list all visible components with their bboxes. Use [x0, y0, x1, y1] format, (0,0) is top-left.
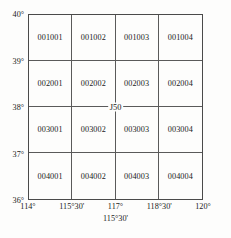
y-tick-label-37: 37° [13, 149, 24, 158]
x-tick-label-118-30: 118°30' [147, 202, 172, 211]
x-tick-label-114: 114° [20, 202, 35, 211]
grid-cell-label: 001002 [81, 33, 106, 42]
grid-cell[interactable]: 002003 [116, 61, 159, 107]
grid-cell[interactable]: 003001 [29, 107, 72, 153]
x-tick-label-120: 120° [195, 202, 211, 211]
x-tick-label-117: 117° [108, 202, 123, 211]
grid-cell-label: 003003 [124, 125, 149, 134]
y-axis-tick-labels: 40° 39° 38° 37° 36° [0, 14, 26, 200]
grid-cell-label: 001003 [124, 33, 149, 42]
grid-cell[interactable]: 004002 [72, 153, 115, 199]
x-tick-label-115-30: 115°30' [59, 202, 84, 211]
grid-cell[interactable]: 004004 [159, 153, 202, 199]
sheet-grid: 001001 001002 001003 001004 002001 00200… [28, 14, 203, 200]
grid-cell[interactable]: 001004 [159, 15, 202, 61]
grid-cell[interactable]: 004003 [116, 153, 159, 199]
map-sheet-index-figure: 40° 39° 38° 37° 36° 001001 001002 001003… [0, 0, 231, 238]
grid-cell[interactable]: 001002 [72, 15, 115, 61]
grid-cell[interactable]: 004001 [29, 153, 72, 199]
grid-cell-label: 002004 [168, 79, 193, 88]
grid-cell[interactable]: 003003 [116, 107, 159, 153]
grid-cell[interactable]: 002004 [159, 61, 202, 107]
x-axis-sub-caption: 115°30' [28, 214, 203, 223]
grid-cell[interactable]: 002002 [72, 61, 115, 107]
grid-cell-label: 004002 [81, 172, 106, 181]
grid-cell-label: 004004 [168, 172, 193, 181]
grid-cell[interactable]: 002001 [29, 61, 72, 107]
grid-cell-label: 002003 [124, 79, 149, 88]
grid-cell-label: 004001 [38, 172, 63, 181]
grid-cell[interactable]: 001001 [29, 15, 72, 61]
y-tick-label-38: 38° [13, 103, 24, 112]
grid-cell-label: 004003 [124, 172, 149, 181]
y-tick-label-40: 40° [13, 10, 24, 19]
grid-cell-label: 002002 [81, 79, 106, 88]
grid-cell-label: 003001 [38, 125, 63, 134]
grid-cell-label: 001001 [38, 33, 63, 42]
grid-cell-label: 003004 [168, 125, 193, 134]
grid-cell-label: 001004 [168, 33, 193, 42]
y-tick-label-39: 39° [13, 56, 24, 65]
grid-cell-label: 002001 [38, 79, 63, 88]
grid-cell[interactable]: 003002 [72, 107, 115, 153]
grid-cell-label: 003002 [81, 125, 106, 134]
grid-cell[interactable]: 001003 [116, 15, 159, 61]
center-sheet-code-label: J50 [108, 103, 124, 112]
grid-cell[interactable]: 003004 [159, 107, 202, 153]
